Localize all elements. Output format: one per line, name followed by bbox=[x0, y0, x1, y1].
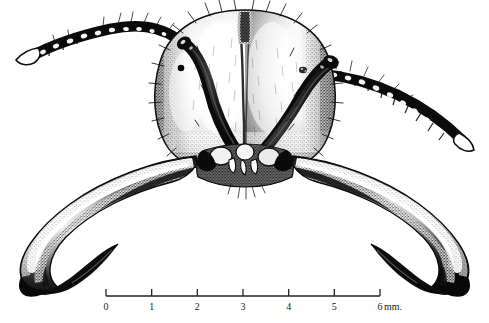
scale-bar-tick-label: 6 bbox=[378, 302, 383, 312]
scale-bar-tick-label: 2 bbox=[195, 302, 200, 312]
scale-bar-tick-label: 4 bbox=[286, 302, 291, 312]
scale-bar-tick-label: 0 bbox=[104, 302, 109, 312]
scale-bar-unit-label: mm. bbox=[384, 302, 402, 312]
compound-eye-left bbox=[178, 65, 185, 72]
scale-bar-tick-label: 5 bbox=[332, 302, 337, 312]
compound-eye-right bbox=[299, 67, 307, 73]
scale-bar-tick-label: 1 bbox=[149, 302, 154, 312]
scale-bar-tick-label: 3 bbox=[241, 302, 246, 312]
ant-head-illustration bbox=[0, 0, 489, 323]
figure-plate: 0123456 mm. bbox=[0, 0, 489, 323]
